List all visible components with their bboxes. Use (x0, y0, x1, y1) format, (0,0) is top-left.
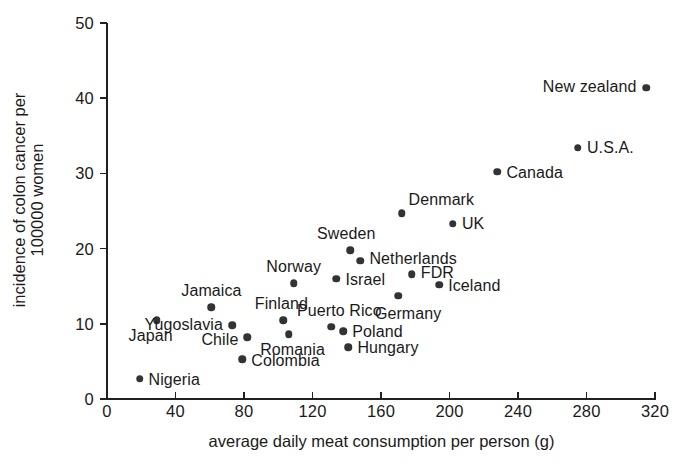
y-tick-label: 50 (58, 14, 94, 33)
data-point[interactable] (357, 257, 365, 265)
data-point-label: Canada (506, 164, 563, 182)
x-tick-label: 160 (367, 402, 395, 421)
data-point[interactable] (346, 246, 354, 254)
data-point[interactable] (333, 275, 341, 283)
data-point[interactable] (239, 355, 247, 363)
y-tick-mark (100, 22, 107, 24)
data-point[interactable] (494, 168, 502, 176)
data-point-label: Denmark (409, 191, 475, 209)
data-point[interactable] (643, 84, 651, 92)
x-tick-label: 0 (102, 402, 111, 421)
data-point-label: Iceland (448, 277, 500, 295)
data-point-label: Nigeria (149, 371, 200, 389)
data-point-label: Norway (266, 258, 321, 276)
y-axis-title: incidence of colon cancer per 100000 wom… (0, 0, 56, 400)
data-point[interactable] (574, 144, 582, 152)
data-point[interactable] (449, 220, 457, 228)
data-point-label: Sweden (317, 225, 375, 243)
data-point-label: Colombia (251, 352, 319, 370)
y-tick-mark (100, 173, 107, 175)
y-axis-title-line-1: incidence of colon cancer per (10, 93, 28, 308)
data-point[interactable] (208, 304, 216, 312)
data-point-label: Germany (375, 305, 442, 323)
data-point-label: Israel (345, 271, 385, 289)
data-point-label: Jamaica (181, 282, 241, 300)
data-point[interactable] (345, 343, 353, 351)
y-tick-mark (100, 97, 107, 99)
x-axis-title: average daily meat consumption per perso… (107, 432, 656, 451)
data-point[interactable] (228, 322, 236, 330)
x-tick-label: 200 (435, 402, 463, 421)
x-tick-label: 40 (166, 402, 185, 421)
y-tick-label: 10 (58, 314, 94, 333)
data-point[interactable] (340, 328, 348, 336)
data-point-label: Puerto Rico (297, 302, 382, 320)
x-tick-label: 80 (235, 402, 254, 421)
data-point-label: Hungary (357, 339, 418, 357)
data-point[interactable] (394, 292, 402, 300)
y-tick-mark (100, 248, 107, 250)
x-tick-label: 280 (572, 402, 600, 421)
data-point[interactable] (280, 316, 288, 324)
data-point[interactable] (244, 334, 252, 342)
data-point-label: U.S.A. (587, 139, 634, 157)
x-tick-label: 320 (641, 402, 669, 421)
data-point[interactable] (398, 210, 406, 218)
data-point[interactable] (290, 279, 298, 287)
plot-area: New zealandU.S.A.CanadaDenmarkUKSwedenNe… (107, 23, 655, 399)
y-axis-title-line-2: 100000 women (28, 93, 46, 308)
data-point[interactable] (136, 375, 144, 383)
data-point-label: Chile (201, 331, 238, 349)
scatter-plot-figure: incidence of colon cancer per 100000 wom… (0, 0, 689, 474)
data-point[interactable] (285, 331, 293, 339)
x-tick-label: 240 (504, 402, 532, 421)
y-tick-label: 40 (58, 89, 94, 108)
data-point-label: UK (462, 215, 484, 233)
y-tick-label: 0 (58, 390, 94, 409)
data-point[interactable] (435, 281, 443, 289)
y-tick-mark (100, 398, 107, 400)
data-point[interactable] (408, 270, 416, 278)
data-point[interactable] (328, 323, 336, 331)
y-tick-mark (100, 323, 107, 325)
x-tick-label: 120 (298, 402, 326, 421)
y-tick-label: 20 (58, 239, 94, 258)
data-point-label: New zealand (543, 78, 637, 96)
y-tick-label: 30 (58, 164, 94, 183)
